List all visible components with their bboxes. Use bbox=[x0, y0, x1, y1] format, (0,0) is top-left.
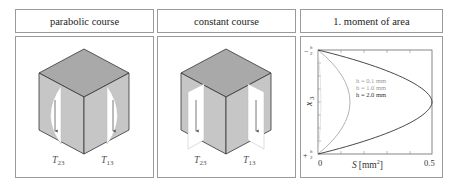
y-label-bottom-den: 2 bbox=[310, 155, 313, 160]
x-tick-0.5: 0.5 bbox=[424, 158, 435, 168]
y-label-top-num: h bbox=[310, 45, 313, 50]
x-tick-0: 0 bbox=[318, 158, 322, 168]
y-ticks bbox=[318, 63, 321, 141]
x-ticks bbox=[341, 50, 410, 154]
figure-canvas: T23 T13 T23 T13 bbox=[0, 0, 452, 187]
cube-constant: T23 T13 bbox=[181, 49, 271, 167]
y-label-bottom-sign: + bbox=[303, 151, 308, 160]
moment-plot: h = 0.1 mm h = 1.0 mm h = 2.0 mm − h 2 +… bbox=[303, 45, 435, 170]
curve-h-1.0mm bbox=[318, 50, 350, 154]
legend-h-2.0mm: h = 2.0 mm bbox=[356, 91, 386, 98]
y-axis-title: x 3 bbox=[303, 96, 316, 107]
y-label-top-den: 2 bbox=[310, 51, 313, 56]
x-axis-title: S[mm2] bbox=[352, 159, 383, 170]
cube-parabolic: T23 T13 bbox=[39, 49, 129, 167]
label-t23: T23 bbox=[52, 154, 65, 167]
svg-text:3: 3 bbox=[308, 96, 316, 100]
svg-text:x: x bbox=[303, 101, 314, 107]
y-label-bottom-num: h bbox=[310, 149, 313, 154]
legend-h-1.0mm: h = 1.0 mm bbox=[356, 84, 386, 91]
label-t23: T23 bbox=[194, 154, 207, 167]
label-t13: T13 bbox=[101, 154, 114, 167]
curve-h-2.0mm bbox=[318, 50, 432, 154]
y-label-top-sign: − bbox=[304, 47, 309, 56]
label-t13: T13 bbox=[243, 154, 256, 167]
plot-frame bbox=[318, 50, 432, 154]
legend-h-0.1mm: h = 0.1 mm bbox=[356, 77, 386, 84]
